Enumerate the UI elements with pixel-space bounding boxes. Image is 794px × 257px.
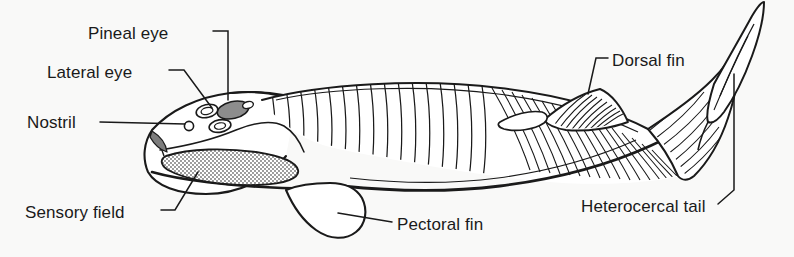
- heterocercal-tail-shape: [648, 2, 764, 180]
- body-trunk: [262, 81, 694, 191]
- label-heterocercal-tail: Heterocercal tail: [581, 198, 706, 215]
- nostril-shape: [184, 121, 193, 130]
- label-pineal-eye: Pineal eye: [88, 25, 168, 42]
- leader-pineal-eye: [213, 31, 228, 100]
- label-pectoral-fin: Pectoral fin: [397, 216, 483, 233]
- anatomy-figure: Pineal eye Lateral eye Nostril Sensory f…: [0, 0, 794, 257]
- pectoral-fin-shape: [286, 183, 365, 238]
- label-dorsal-fin: Dorsal fin: [612, 52, 685, 69]
- label-nostril: Nostril: [27, 114, 76, 131]
- label-lateral-eye: Lateral eye: [47, 64, 132, 81]
- label-sensory-field: Sensory field: [25, 204, 125, 221]
